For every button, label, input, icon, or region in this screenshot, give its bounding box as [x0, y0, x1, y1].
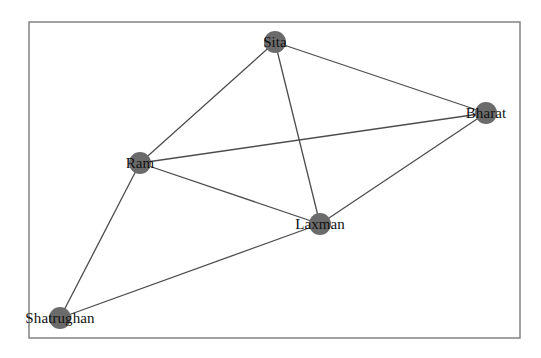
graph-node-shatrughan[interactable]: [49, 307, 71, 329]
node-layer: [49, 31, 497, 329]
graph-node-bharat[interactable]: [475, 102, 497, 124]
graph-edge: [320, 113, 486, 224]
graph-edge: [60, 163, 140, 318]
graph-node-sita[interactable]: [264, 31, 286, 53]
graph-node-ram[interactable]: [129, 152, 151, 174]
graph-edge: [140, 113, 486, 163]
network-graph-canvas: [0, 0, 541, 358]
graph-node-laxman[interactable]: [309, 213, 331, 235]
graph-edge: [140, 42, 275, 163]
graph-edge: [140, 163, 320, 224]
figure-frame: [29, 22, 520, 338]
edge-layer: [60, 42, 486, 318]
graph-edge: [60, 224, 320, 318]
graph-edge: [275, 42, 320, 224]
graph-figure: SitaBharatRamLaxmanShatrughan: [0, 0, 541, 358]
graph-edge: [275, 42, 486, 113]
